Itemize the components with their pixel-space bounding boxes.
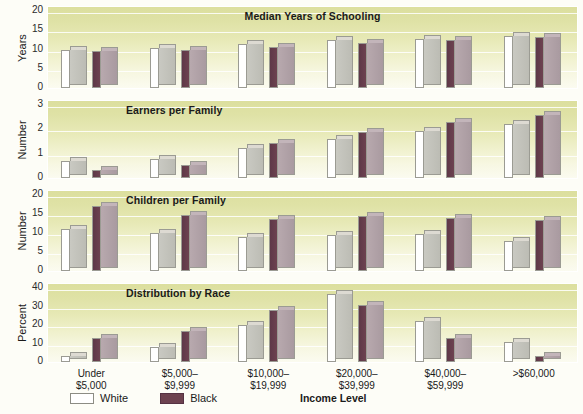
bar-white-5 bbox=[415, 321, 442, 362]
bar-top-face bbox=[101, 334, 118, 338]
bar-front-face bbox=[92, 206, 101, 271]
y-axis-tick: 20 bbox=[32, 318, 43, 329]
bar-top-face bbox=[101, 202, 118, 206]
bar-top-face bbox=[278, 43, 295, 47]
bar-side-face bbox=[159, 230, 176, 268]
bar-top-face bbox=[513, 237, 530, 241]
bar-front-face bbox=[504, 124, 513, 178]
bar-white-6 bbox=[504, 342, 531, 362]
bar-top-face bbox=[455, 36, 472, 40]
plot-area bbox=[48, 284, 577, 362]
bar-top-face bbox=[367, 128, 384, 132]
bar-front-face bbox=[238, 325, 247, 362]
bar-black-1 bbox=[92, 206, 119, 271]
bar-top-face bbox=[159, 343, 176, 347]
y-axis-tick: 0 bbox=[37, 81, 43, 92]
bar-side-face bbox=[70, 226, 87, 268]
y-axis-tick: 10 bbox=[32, 42, 43, 53]
bar-front-face bbox=[358, 305, 367, 362]
bar-front-face bbox=[358, 43, 367, 88]
bar-white-1 bbox=[61, 229, 88, 271]
x-axis-tick-line: $19,999 bbox=[224, 380, 313, 392]
bar-black-4 bbox=[358, 43, 385, 88]
bar-front-face bbox=[92, 338, 101, 362]
bar-top-face bbox=[336, 231, 353, 235]
bar-side-face bbox=[455, 119, 472, 175]
y-axis-panel-2: Number0123 bbox=[0, 100, 47, 179]
bar-front-face bbox=[327, 294, 336, 362]
bar-top-face bbox=[159, 44, 176, 48]
bar-black-5 bbox=[446, 40, 473, 88]
y-axis-tick: 20 bbox=[32, 4, 43, 15]
y-axis-label: Percent bbox=[16, 293, 28, 353]
bar-front-face bbox=[415, 39, 424, 88]
bar-front-face bbox=[535, 356, 544, 362]
bar-top-face bbox=[159, 155, 176, 159]
bar-top-face bbox=[101, 47, 118, 51]
bar-front-face bbox=[269, 143, 278, 178]
bar-side-face bbox=[278, 44, 295, 85]
bar-top-face bbox=[367, 301, 384, 305]
bar-side-face bbox=[367, 40, 384, 85]
bar-front-face bbox=[61, 161, 70, 178]
bar-top-face bbox=[455, 118, 472, 122]
bar-black-2 bbox=[181, 165, 208, 178]
y-axis-panel-1: Years05101520 bbox=[0, 6, 47, 89]
bar-side-face bbox=[278, 307, 295, 359]
bar-side-face bbox=[247, 145, 264, 175]
bar-top-face bbox=[278, 306, 295, 310]
bar-top-face bbox=[247, 144, 264, 148]
bar-white-4 bbox=[327, 139, 354, 178]
bar-black-2 bbox=[181, 50, 208, 88]
bar-black-6 bbox=[535, 220, 562, 271]
bar-top-face bbox=[101, 166, 118, 170]
bar-top-face bbox=[336, 36, 353, 40]
bar-top-face bbox=[513, 32, 530, 36]
bar-white-6 bbox=[504, 241, 531, 271]
bar-top-face bbox=[544, 216, 561, 220]
bar-side-face bbox=[544, 217, 561, 268]
bar-side-face bbox=[247, 234, 264, 268]
legend-label-white: White bbox=[100, 392, 128, 404]
bar-front-face bbox=[92, 170, 101, 178]
x-axis-title: Income Level bbox=[300, 392, 367, 404]
bar-front-face bbox=[61, 229, 70, 271]
bar-white-1 bbox=[61, 356, 88, 362]
bar-front-face bbox=[327, 139, 336, 178]
bar-front-face bbox=[269, 219, 278, 271]
bar-top-face bbox=[247, 321, 264, 325]
bar-side-face bbox=[336, 291, 353, 359]
bar-white-4 bbox=[327, 294, 354, 362]
bar-side-face bbox=[336, 232, 353, 268]
bar-side-face bbox=[336, 136, 353, 175]
bar-front-face bbox=[238, 148, 247, 178]
bar-side-face bbox=[544, 112, 561, 175]
bar-side-face bbox=[424, 36, 441, 85]
bar-black-6 bbox=[535, 115, 562, 178]
x-axis-tick-line: $10,000– bbox=[224, 368, 313, 380]
bar-black-3 bbox=[269, 219, 296, 271]
bar-front-face bbox=[535, 220, 544, 271]
bar-white-2 bbox=[150, 159, 177, 178]
bar-white-3 bbox=[238, 237, 265, 271]
bar-side-face bbox=[367, 129, 384, 175]
bar-side-face bbox=[336, 37, 353, 85]
bar-front-face bbox=[61, 50, 70, 89]
x-axis-tick-label-5: $40,000–$59,999 bbox=[401, 368, 490, 392]
bar-front-face bbox=[61, 356, 70, 362]
bar-front-face bbox=[327, 235, 336, 271]
bar-front-face bbox=[415, 321, 424, 362]
legend-item-black: Black bbox=[160, 392, 217, 404]
bar-top-face bbox=[544, 111, 561, 115]
bar-white-6 bbox=[504, 124, 531, 178]
y-axis-tick: 3 bbox=[37, 98, 43, 109]
bar-top-face bbox=[190, 161, 207, 165]
bar-side-face bbox=[190, 328, 207, 359]
x-axis-tick-line: $20,000– bbox=[313, 368, 402, 380]
chart-panel-2: Earners per Family bbox=[47, 100, 578, 179]
bar-black-6 bbox=[535, 37, 562, 88]
y-axis-tick: 30 bbox=[32, 299, 43, 310]
bar-white-2 bbox=[150, 347, 177, 362]
bar-side-face bbox=[70, 47, 87, 86]
y-axis-tick: 2 bbox=[37, 122, 43, 133]
